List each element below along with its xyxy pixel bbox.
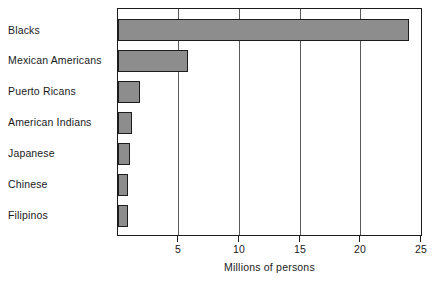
gridline-20 — [360, 9, 361, 235]
bar-filipinos — [118, 205, 128, 227]
category-label-blacks: Blacks — [8, 24, 112, 36]
bar-chart: Blacks Mexican Americans Puerto Ricans A… — [0, 0, 446, 282]
category-label-japanese: Japanese — [8, 147, 112, 159]
xtick-label-20: 20 — [340, 243, 380, 255]
gridline-10 — [239, 9, 240, 235]
bar-american-indians — [118, 112, 132, 134]
plot-area — [117, 8, 422, 236]
category-label-mexican-americans: Mexican Americans — [8, 54, 112, 66]
xtick-mark-10 — [238, 236, 239, 242]
category-label-chinese: Chinese — [8, 178, 112, 190]
xtick-mark-20 — [359, 236, 360, 242]
bar-chinese — [118, 174, 128, 196]
xtick-label-25: 25 — [401, 243, 441, 255]
gridline-5 — [178, 9, 179, 235]
xtick-mark-25 — [420, 236, 421, 242]
category-label-filipinos: Filipinos — [8, 209, 112, 221]
xtick-mark-5 — [177, 236, 178, 242]
category-label-american-indians: American Indians — [8, 116, 112, 128]
bar-blacks — [118, 19, 409, 41]
xtick-label-10: 10 — [219, 243, 259, 255]
xtick-label-5: 5 — [158, 243, 198, 255]
xtick-mark-15 — [299, 236, 300, 242]
bar-mexican-americans — [118, 50, 188, 72]
bar-puerto-ricans — [118, 81, 140, 103]
bar-japanese — [118, 143, 130, 165]
xtick-label-15: 15 — [280, 243, 320, 255]
x-axis-title: Millions of persons — [117, 261, 422, 273]
category-label-puerto-ricans: Puerto Ricans — [8, 85, 112, 97]
gridline-15 — [300, 9, 301, 235]
